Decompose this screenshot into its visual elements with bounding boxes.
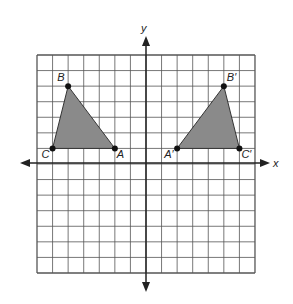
vertex-point	[221, 83, 227, 89]
vertex-point	[65, 83, 71, 89]
axes: x y	[20, 22, 279, 292]
y-axis-up-arrow-icon	[142, 36, 150, 46]
x-axis-left-arrow-icon	[20, 159, 30, 167]
x-axis-right-arrow-icon	[260, 159, 270, 167]
vertex-label: B′	[227, 71, 237, 83]
coordinate-plane: x y ABCA′B′C′	[0, 0, 293, 304]
x-axis-label: x	[272, 157, 279, 169]
y-axis-down-arrow-icon	[142, 282, 150, 292]
y-axis-label: y	[140, 22, 148, 34]
vertex-label: C	[42, 148, 50, 160]
vertex-point	[174, 145, 180, 151]
vertex-label: C′	[241, 148, 252, 160]
vertex-label: A	[116, 148, 124, 160]
vertex-point	[50, 145, 56, 151]
vertex-label: A′	[163, 148, 174, 160]
vertex-label: B	[57, 71, 64, 83]
